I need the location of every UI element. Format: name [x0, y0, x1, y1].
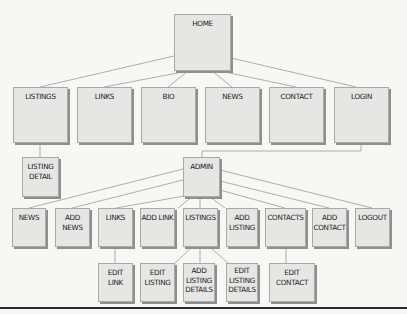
- node-contact[interactable]: CONTACT: [269, 87, 324, 143]
- node-admin-listings[interactable]: LISTINGS: [183, 208, 218, 247]
- node-logout[interactable]: LOGOUT: [355, 208, 390, 247]
- node-edit-contact[interactable]: EDIT CONTACT: [269, 263, 315, 302]
- node-links[interactable]: LINKS: [77, 87, 132, 143]
- node-add-news[interactable]: ADD NEWS: [55, 208, 90, 247]
- node-admin-news[interactable]: NEWS: [12, 208, 46, 247]
- site-map-diagram: HOME LISTINGS LINKS BIO NEWS CONTACT LOG…: [0, 0, 407, 314]
- node-contacts[interactable]: CONTACTS: [265, 208, 306, 247]
- node-add-listing[interactable]: ADD LISTING: [226, 208, 258, 247]
- node-admin[interactable]: ADMIN: [183, 157, 220, 197]
- node-home[interactable]: HOME: [174, 14, 231, 71]
- node-admin-links[interactable]: LINKS: [98, 208, 133, 247]
- node-edit-link[interactable]: EDIT LINK: [98, 263, 133, 302]
- node-add-link[interactable]: ADD LINK: [140, 208, 175, 247]
- node-news[interactable]: NEWS: [205, 87, 260, 143]
- node-listings[interactable]: LISTINGS: [13, 87, 68, 143]
- bottom-divider: [0, 307, 407, 309]
- node-add-contact[interactable]: ADD CONTACT: [312, 208, 347, 247]
- node-edit-listing-details[interactable]: EDIT LISTING DETAILS: [226, 263, 258, 302]
- node-bio[interactable]: BIO: [141, 87, 196, 143]
- node-add-listing-details[interactable]: ADD LISTING DETAILS: [183, 263, 215, 302]
- node-edit-listing[interactable]: EDIT LISTING: [140, 263, 175, 302]
- node-login[interactable]: LOGIN: [334, 87, 389, 143]
- node-listing-detail[interactable]: LISTING DETAIL: [22, 157, 59, 197]
